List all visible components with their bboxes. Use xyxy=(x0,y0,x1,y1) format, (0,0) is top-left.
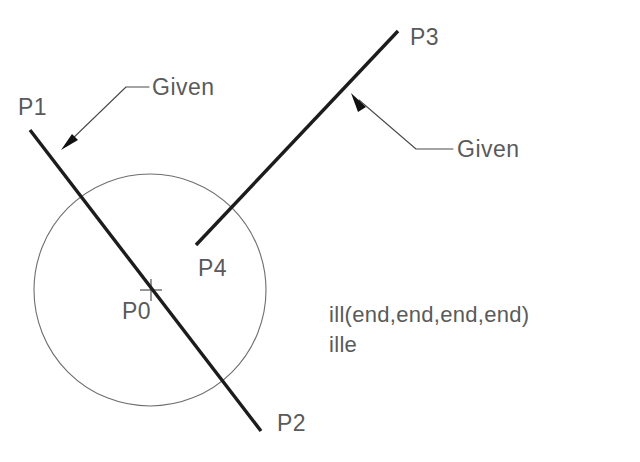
label-p1: P1 xyxy=(18,94,47,120)
leader-right-polyline xyxy=(359,100,453,149)
diagram-canvas: P1 P2 P3 P4 P0 Given Given ill(end,end,e… xyxy=(0,0,640,462)
label-given-right: Given xyxy=(457,136,520,162)
command-text-line-1: ill(end,end,end,end) xyxy=(329,302,529,327)
line-p3-p4 xyxy=(196,31,398,245)
leader-left-polyline xyxy=(68,87,149,143)
leader-given-right xyxy=(351,93,453,149)
leader-given-left xyxy=(61,87,149,150)
label-given-left: Given xyxy=(152,74,215,100)
label-p4: P4 xyxy=(198,255,227,281)
command-text-line-2: ille xyxy=(329,332,357,357)
leader-right-arrowhead xyxy=(351,93,366,112)
label-p2: P2 xyxy=(277,410,306,436)
cad-geometry-drawing: P1 P2 P3 P4 P0 Given Given ill(end,end,e… xyxy=(0,0,640,462)
label-p0: P0 xyxy=(122,298,151,324)
label-p3: P3 xyxy=(410,24,439,50)
